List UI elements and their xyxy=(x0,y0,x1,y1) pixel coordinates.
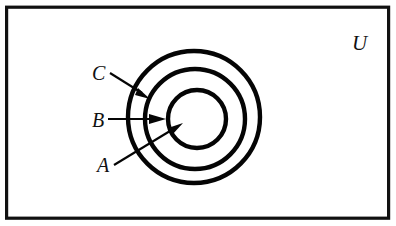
universal-set-label: U xyxy=(352,31,369,55)
set-label-c: C xyxy=(92,62,106,84)
venn-diagram-canvas: U C B A xyxy=(0,0,396,226)
set-label-a: A xyxy=(95,154,110,176)
set-label-b: B xyxy=(92,109,104,131)
figure-root: U C B A xyxy=(0,0,396,226)
universal-set-frame xyxy=(7,7,389,218)
